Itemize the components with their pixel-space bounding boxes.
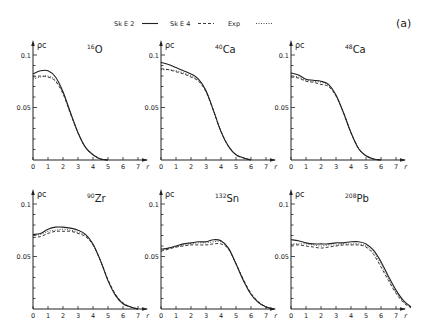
panel-90zr: 0.10.05ρc01234567r90Zr: [17, 189, 151, 320]
curve-exp: [291, 76, 381, 160]
element-symbol: Ca: [353, 44, 366, 55]
x-axis-label: r: [146, 312, 150, 320]
x-tick-label: 3: [334, 163, 338, 171]
x-tick-label: 3: [76, 163, 80, 171]
curve-ske4: [291, 245, 411, 308]
x-axis-label: r: [404, 312, 408, 320]
y-tick-label: 0.1: [21, 52, 31, 60]
y-tick-label: 0.1: [149, 201, 159, 209]
x-axis-arrow-icon: [142, 158, 148, 162]
x-tick-label: 4: [219, 163, 223, 171]
x-tick-label: 6: [249, 163, 253, 171]
panels: 0.10.05ρc01234567r16O0.10.05ρc01234567r4…: [17, 40, 411, 320]
x-tick-label: 5: [234, 312, 238, 320]
x-tick-label: 0: [159, 163, 163, 171]
curve-exp: [291, 244, 411, 308]
panel-title: 40Ca: [215, 43, 236, 55]
curve-ske2: [33, 70, 108, 160]
x-tick-label: 6: [121, 312, 125, 320]
x-tick-label: 0: [31, 312, 35, 320]
x-tick-label: 5: [364, 163, 368, 171]
figure: Sk E 2Sk E 4Exp (a) 0.10.05ρc01234567r16…: [0, 0, 439, 333]
x-tick-label: 7: [136, 163, 140, 171]
legend-label: Exp: [228, 20, 240, 28]
y-axis-arrow-icon: [31, 189, 35, 195]
y-tick-label: 0.05: [145, 104, 159, 112]
panel-40ca: 0.10.05ρc01234567r40Ca: [145, 40, 279, 171]
x-tick-label: 7: [394, 312, 398, 320]
x-tick-label: 0: [159, 312, 163, 320]
y-tick-label: 0.05: [275, 253, 289, 261]
x-tick-label: 6: [379, 163, 383, 171]
x-tick-label: 5: [364, 312, 368, 320]
x-tick-label: 2: [189, 163, 193, 171]
y-tick-label: 0.1: [21, 201, 31, 209]
y-axis-label: ρc: [37, 41, 46, 50]
x-tick-label: 4: [91, 163, 95, 171]
x-axis-arrow-icon: [400, 307, 406, 311]
panel-title: 48Ca: [345, 43, 366, 55]
element-symbol: Sn: [226, 193, 239, 204]
y-tick-label: 0.05: [17, 104, 31, 112]
x-axis-arrow-icon: [400, 158, 406, 162]
legend-item-ske4: Sk E 4: [170, 20, 214, 28]
x-tick-label: 2: [189, 312, 193, 320]
legend-label: Sk E 4: [170, 20, 190, 28]
curve-exp: [33, 76, 108, 160]
x-tick-label: 5: [234, 163, 238, 171]
x-tick-label: 4: [91, 312, 95, 320]
y-tick-label: 0.1: [279, 52, 289, 60]
y-axis-label: ρc: [165, 190, 174, 199]
curve-ske2: [33, 227, 138, 309]
x-tick-label: 7: [264, 163, 268, 171]
legend-label: Sk E 2: [114, 20, 134, 28]
x-tick-label: 0: [289, 312, 293, 320]
x-tick-label: 0: [31, 163, 35, 171]
mass-number: 16: [87, 43, 95, 50]
x-tick-label: 6: [249, 312, 253, 320]
x-axis-label: r: [404, 163, 408, 171]
x-tick-label: 7: [136, 312, 140, 320]
curve-ske2: [161, 62, 251, 160]
legend-item-exp: Exp: [228, 20, 272, 28]
x-tick-label: 1: [46, 163, 50, 171]
panel-132sn: 0.10.05ρc01234567r132Sn: [145, 189, 279, 320]
x-tick-label: 3: [334, 312, 338, 320]
curve-ske4: [33, 231, 138, 309]
x-tick-label: 7: [264, 312, 268, 320]
legend: Sk E 2Sk E 4Exp: [114, 20, 272, 28]
panel-title: 16O: [87, 43, 103, 55]
x-axis-label: r: [274, 163, 278, 171]
curve-ske2: [291, 240, 411, 307]
y-axis-label: ρc: [295, 41, 304, 50]
mass-number: 208: [345, 192, 357, 199]
curve-exp: [161, 241, 274, 309]
x-tick-label: 5: [106, 312, 110, 320]
curve-ske4: [33, 76, 108, 160]
y-tick-label: 0.1: [149, 52, 159, 60]
y-tick-label: 0.05: [17, 253, 31, 261]
x-tick-label: 5: [106, 163, 110, 171]
x-tick-label: 3: [204, 312, 208, 320]
panel-16o: 0.10.05ρc01234567r16O: [17, 40, 151, 171]
y-axis-label: ρc: [37, 190, 46, 199]
y-tick-label: 0.05: [145, 253, 159, 261]
curve-ske2: [291, 73, 381, 160]
y-axis-label: ρc: [165, 41, 174, 50]
panel-title: 90Zr: [87, 192, 106, 204]
x-tick-label: 4: [349, 163, 353, 171]
curve-exp: [161, 70, 251, 160]
x-tick-label: 3: [76, 312, 80, 320]
figure-label: (a): [396, 17, 411, 30]
y-axis-arrow-icon: [31, 40, 35, 46]
x-tick-label: 2: [61, 312, 65, 320]
curve-ske2: [161, 240, 274, 309]
y-tick-label: 0.1: [279, 201, 289, 209]
y-tick-label: 0.05: [275, 104, 289, 112]
x-tick-label: 1: [46, 312, 50, 320]
curve-ske4: [161, 243, 274, 309]
mass-number: 132: [215, 192, 227, 199]
x-axis-arrow-icon: [270, 158, 276, 162]
x-axis-arrow-icon: [142, 307, 148, 311]
curve-ske4: [161, 69, 251, 160]
